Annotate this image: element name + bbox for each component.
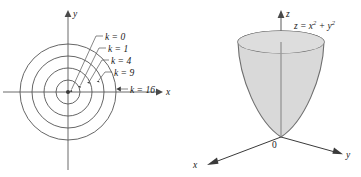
x-axis-arrow-icon [156,89,163,96]
z-axis-label: z [285,9,290,19]
level-label-k9: k = 9 [114,68,134,78]
x-axis-label: x [192,160,198,170]
leader-line-k9 [99,72,112,80]
level-curve-k0 [66,90,70,94]
surface-svg: z y x 0 z = x2 + y2 [180,0,361,177]
level-label-k16: k = 16 [130,85,155,95]
y-axis-label: y [345,150,351,160]
y-axis-arrow-icon [65,10,72,17]
z-axis-arrow-icon [278,10,285,18]
equation-base: z = x [293,21,314,31]
surface-equation-label: z = x2 + y2 [293,19,336,31]
leader-arrow-k9-icon [97,80,100,82]
leader-arrow-k16-icon [116,87,121,92]
origin-label: 0 [272,140,277,150]
equation-mid: + y [316,21,332,31]
level-label-k1: k = 1 [108,44,128,54]
equation-exponent-2: 2 [332,19,336,26]
x-axis-label: x [165,87,171,97]
y-axis-label: y [72,9,78,19]
level-label-k4: k = 4 [111,56,131,66]
contour-map-svg: x y [0,0,180,177]
contour-map-panel: x y [0,0,180,177]
x-axis-arrow-icon [207,158,219,166]
surface-panel: z y x 0 z = x2 + y2 [180,0,361,177]
figure-root: x y [0,0,361,177]
level-label-k0: k = 0 [105,32,125,42]
y-axis-line [281,137,335,152]
y-axis-arrow-icon [332,148,343,155]
